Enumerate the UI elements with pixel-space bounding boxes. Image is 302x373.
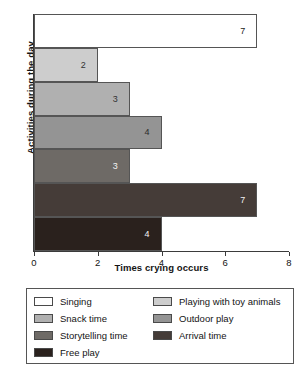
bar-value-label: 2 xyxy=(81,60,86,69)
legend-column-right: Playing with toy animalsOutdoor playArri… xyxy=(153,293,280,344)
bar-row: 7 xyxy=(34,14,289,48)
legend-swatch-icon xyxy=(34,314,53,323)
bar-value-label: 3 xyxy=(113,94,118,103)
legend-item[interactable]: Playing with toy animals xyxy=(153,293,280,310)
legend-swatch-icon xyxy=(34,348,53,357)
bar-value-label: 4 xyxy=(145,128,150,137)
x-tick-mark xyxy=(98,252,99,256)
legend-item[interactable]: Free play xyxy=(34,344,128,361)
legend-item[interactable]: Snack time xyxy=(34,310,128,327)
bar xyxy=(34,217,162,251)
bar-value-label: 7 xyxy=(240,26,245,35)
bar xyxy=(34,48,98,82)
x-tick-mark xyxy=(34,252,35,256)
bar-row: 7 xyxy=(34,183,289,217)
legend-swatch-icon xyxy=(153,314,172,323)
bar-row: 2 xyxy=(34,48,289,82)
bar-chart-figure: Activities during the day 7234374 02468 … xyxy=(0,0,302,373)
legend-label: Snack time xyxy=(60,313,107,324)
bar-row: 4 xyxy=(34,116,289,150)
legend-swatch-icon xyxy=(34,297,53,306)
legend-swatch-icon xyxy=(153,297,172,306)
x-tick-mark xyxy=(225,252,226,256)
legend-item[interactable]: Storytelling time xyxy=(34,327,128,344)
bar-value-label: 3 xyxy=(113,162,118,171)
legend-label: Playing with toy animals xyxy=(179,296,280,307)
legend-swatch-icon xyxy=(153,331,172,340)
bar xyxy=(34,14,257,48)
bar-value-label: 7 xyxy=(240,196,245,205)
legend-item[interactable]: Arrival time xyxy=(153,327,280,344)
legend-label: Free play xyxy=(60,347,100,358)
legend-label: Arrival time xyxy=(179,330,227,341)
bar-row: 3 xyxy=(34,82,289,116)
legend-label: Singing xyxy=(60,296,92,307)
legend-label: Outdoor play xyxy=(179,313,233,324)
chart-legend: SingingSnack timeStorytelling timeFree p… xyxy=(26,288,294,364)
bar-row: 3 xyxy=(34,149,289,183)
plot-area: 7234374 02468 xyxy=(34,14,289,251)
x-axis-title: Times crying occurs xyxy=(34,262,289,273)
legend-column-left: SingingSnack timeStorytelling timeFree p… xyxy=(34,293,128,361)
x-tick-mark xyxy=(289,252,290,256)
bar xyxy=(34,183,257,217)
bar-row: 4 xyxy=(34,217,289,251)
legend-swatch-icon xyxy=(34,331,53,340)
bar xyxy=(34,116,162,150)
legend-label: Storytelling time xyxy=(60,330,128,341)
bar-value-label: 4 xyxy=(145,230,150,239)
x-tick-mark xyxy=(162,252,163,256)
legend-item[interactable]: Outdoor play xyxy=(153,310,280,327)
legend-item[interactable]: Singing xyxy=(34,293,128,310)
